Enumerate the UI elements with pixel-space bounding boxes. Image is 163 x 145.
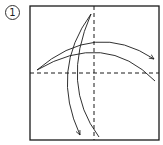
fold-diagram xyxy=(0,0,163,145)
